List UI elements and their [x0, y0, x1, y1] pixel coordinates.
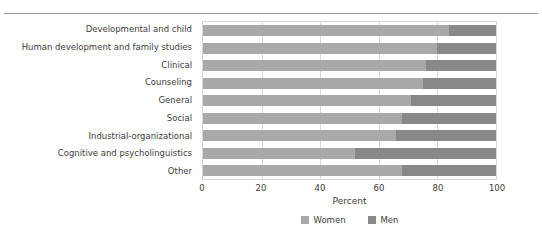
legend-label: Women [314, 215, 346, 225]
bar-segment-women [203, 165, 402, 176]
bar-row [203, 60, 496, 71]
bar-segment-women [203, 148, 355, 159]
category-label: Developmental and child [0, 24, 197, 35]
bar-row [203, 148, 496, 159]
bar-segment-men [396, 130, 496, 141]
x-tick-label: 0 [199, 183, 204, 193]
x-axis-ticks: 020406080100 [202, 183, 497, 196]
bar-row [203, 113, 496, 124]
legend-item-men[interactable]: Men [368, 215, 399, 225]
category-label: Other [0, 166, 197, 177]
x-axis-title: Percent [202, 196, 497, 206]
bar-row [203, 43, 496, 54]
x-tick-label: 40 [315, 183, 326, 193]
bar-rows [203, 22, 496, 179]
category-label: Clinical [0, 60, 197, 71]
bar-segment-men [449, 25, 496, 36]
category-label: General [0, 95, 197, 106]
bar-segment-men [426, 60, 496, 71]
chart-legend: WomenMen [202, 213, 497, 227]
category-label: Counseling [0, 77, 197, 88]
x-tick-label: 80 [433, 183, 444, 193]
category-label: Social [0, 113, 197, 124]
x-tick-label: 60 [374, 183, 385, 193]
bar-row [203, 130, 496, 141]
bar-row [203, 165, 496, 176]
bar-segment-women [203, 95, 411, 106]
x-tick-label: 20 [256, 183, 267, 193]
bar-segment-men [402, 165, 496, 176]
bar-segment-women [203, 60, 426, 71]
legend-label: Men [381, 215, 399, 225]
bar-row [203, 78, 496, 89]
bar-segment-women [203, 130, 396, 141]
bar-row [203, 25, 496, 36]
legend-swatch-icon [368, 216, 376, 224]
bar-segment-men [355, 148, 496, 159]
category-axis-labels: Developmental and childHuman development… [0, 21, 197, 180]
category-label: Cognitive and psycholinguistics [0, 148, 197, 159]
legend-item-women[interactable]: Women [301, 215, 346, 225]
category-label: Human development and family studies [0, 42, 197, 53]
bar-row [203, 95, 496, 106]
bar-segment-men [402, 113, 496, 124]
x-tick-label: 100 [489, 183, 505, 193]
legend-swatch-icon [301, 216, 309, 224]
category-label: Industrial-organizational [0, 131, 197, 142]
bar-segment-men [437, 43, 496, 54]
plot-area [202, 21, 497, 180]
bar-segment-men [411, 95, 496, 106]
bar-segment-men [423, 78, 496, 89]
bar-segment-women [203, 78, 423, 89]
stacked-bar-chart: Developmental and childHuman development… [0, 0, 542, 245]
bar-segment-women [203, 113, 402, 124]
bar-segment-women [203, 43, 437, 54]
bar-segment-women [203, 25, 449, 36]
